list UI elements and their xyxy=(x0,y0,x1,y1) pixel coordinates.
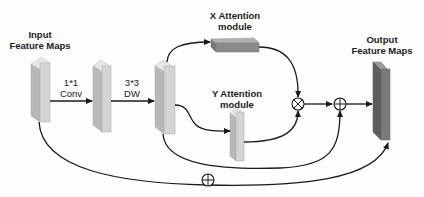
to-x-attention-arrow xyxy=(167,42,210,62)
dw-skip-to-add-arrow xyxy=(163,111,340,168)
x-attention-block xyxy=(211,38,259,52)
x-attention-label-line1: X Attention xyxy=(200,10,270,21)
input-feature-maps-label: Input Feature Maps xyxy=(5,29,75,51)
x-attention-label-line2: module xyxy=(200,21,270,32)
y-attention-label-line1: Y Attention xyxy=(200,88,274,99)
input-label-line1: Input xyxy=(5,29,75,40)
output-feature-maps-label: Output Feature Maps xyxy=(345,34,419,56)
dw-label-line1: 3*3 xyxy=(117,77,147,88)
input-label-line2: Feature Maps xyxy=(5,40,75,51)
output-feature-map-block xyxy=(373,62,390,140)
input-residual-arrow xyxy=(39,122,388,185)
dw-label-line2: DW xyxy=(117,88,147,99)
y-to-multiply-arrow xyxy=(244,111,298,142)
output-label-line1: Output xyxy=(345,34,419,45)
add-operator-inner xyxy=(334,98,346,110)
conv-label-line2: Conv xyxy=(56,88,86,99)
input-feature-map-block xyxy=(31,57,50,122)
conv-output-block xyxy=(93,60,111,132)
conv-label: 1*1 Conv xyxy=(56,77,86,99)
dw-output-block xyxy=(155,60,175,134)
multiply-operator xyxy=(292,98,304,110)
y-attention-label-line2: module xyxy=(200,99,274,110)
x-attention-label: X Attention module xyxy=(200,10,270,32)
output-label-line2: Feature Maps xyxy=(345,45,419,56)
attention-architecture-diagram: Input Feature Maps 1*1 Conv 3*3 DW X Att… xyxy=(0,0,424,197)
dw-label: 3*3 DW xyxy=(117,77,147,99)
y-attention-label: Y Attention module xyxy=(200,88,274,110)
add-operator-residual xyxy=(202,174,214,186)
conv-label-line1: 1*1 xyxy=(56,77,86,88)
y-attention-block xyxy=(230,108,244,161)
